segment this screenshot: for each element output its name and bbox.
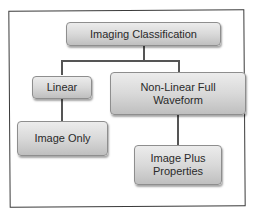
node-imaging-classification: Imaging Classification bbox=[66, 22, 221, 46]
connector-root-down bbox=[143, 46, 145, 60]
node-non-linear-full-waveform: Non-Linear Full Waveform bbox=[110, 72, 246, 115]
node-label: Linear bbox=[47, 81, 78, 94]
connector-to-linear bbox=[61, 60, 63, 75]
node-label: Imaging Classification bbox=[90, 28, 197, 41]
connector-to-nonlinear bbox=[178, 60, 180, 72]
connector-linear-to-image-only bbox=[61, 99, 63, 121]
node-label: Image Only bbox=[34, 132, 90, 145]
node-image-only: Image Only bbox=[17, 121, 108, 156]
node-image-plus-properties: Image Plus Properties bbox=[134, 145, 222, 185]
connector-horizontal bbox=[61, 60, 179, 62]
node-linear: Linear bbox=[32, 76, 92, 99]
connector-nonlinear-to-image-plus bbox=[177, 115, 179, 145]
node-label: Image Plus Properties bbox=[149, 152, 207, 178]
node-label: Non-Linear Full Waveform bbox=[129, 81, 227, 107]
